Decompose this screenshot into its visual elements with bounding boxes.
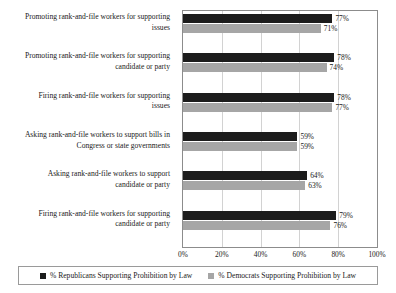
bars-layer: 77%71%78%74%78%77%59%59%64%63%79%76% <box>183 11 377 247</box>
bar-dem <box>183 142 297 151</box>
bar-dem <box>183 181 305 190</box>
bar-rep <box>183 93 334 102</box>
x-axis-ticks: 0%20%40%60%80%100% <box>182 249 378 261</box>
category-axis-labels: Promoting rank-and-file workers for supp… <box>0 10 176 248</box>
bar-value-label: 78% <box>337 53 351 62</box>
bar-chart: Promoting rank-and-file workers for supp… <box>0 0 396 293</box>
bar-dem <box>183 24 321 33</box>
bar-value-label: 59% <box>300 142 314 151</box>
bar-dem <box>183 63 327 72</box>
bar-value-label: 76% <box>333 221 347 230</box>
category-label-line: Asking rank-and-file workers to support … <box>0 130 170 141</box>
bar-value-label: 78% <box>337 93 351 102</box>
bar-value-label: 64% <box>310 171 324 180</box>
x-tick-label: 100% <box>368 249 385 260</box>
category-label-line: Asking rank-and-file workers to support <box>0 169 170 180</box>
bar-rep <box>183 132 297 141</box>
bar-value-label: 59% <box>300 132 314 141</box>
legend-label: % Republicans Supporting Prohibition by … <box>50 271 192 280</box>
bar-value-label: 77% <box>335 103 349 112</box>
category-label-line: issues <box>0 23 170 34</box>
legend-swatch-icon <box>40 273 46 279</box>
bar-rep <box>183 171 307 180</box>
category-label-line: candidate or party <box>0 219 170 230</box>
category-label: Firing rank-and-file workers for support… <box>0 209 170 230</box>
x-tick-label: 20% <box>215 249 229 260</box>
bar-dem <box>183 221 330 230</box>
x-tick-label: 0% <box>178 249 188 260</box>
chart-legend: % Republicans Supporting Prohibition by … <box>18 266 378 285</box>
bar-dem <box>183 103 332 112</box>
category-label: Asking rank-and-file workers to support … <box>0 130 170 151</box>
bar-value-label: 71% <box>324 24 338 33</box>
category-label-line: Promoting rank-and-file workers for supp… <box>0 51 170 62</box>
category-label: Firing rank-and-file workers for support… <box>0 91 170 112</box>
category-label-line: Firing rank-and-file workers for support… <box>0 91 170 102</box>
legend-item-dem[interactable]: % Democrats Supporting Prohibition by La… <box>208 271 356 280</box>
category-label-line: Congress or state governments <box>0 141 170 152</box>
bar-value-label: 74% <box>330 63 344 72</box>
category-label: Asking rank-and-file workers to supportc… <box>0 169 170 190</box>
bar-value-label: 79% <box>339 211 353 220</box>
bar-value-label: 63% <box>308 181 322 190</box>
legend-item-rep[interactable]: % Republicans Supporting Prohibition by … <box>40 271 192 280</box>
category-label-line: candidate or party <box>0 62 170 73</box>
bar-rep <box>183 53 334 62</box>
category-label-line: Firing rank-and-file workers for support… <box>0 209 170 220</box>
x-tick-label: 80% <box>331 249 345 260</box>
bar-value-label: 77% <box>335 14 349 23</box>
category-label: Promoting rank-and-file workers for supp… <box>0 51 170 72</box>
x-tick-label: 40% <box>254 249 268 260</box>
category-label-line: Promoting rank-and-file workers for supp… <box>0 12 170 23</box>
x-tick-label: 60% <box>293 249 307 260</box>
legend-swatch-icon <box>208 273 214 279</box>
bar-rep <box>183 211 336 220</box>
legend-label: % Democrats Supporting Prohibition by La… <box>218 271 356 280</box>
category-label-line: candidate or party <box>0 180 170 191</box>
category-label-line: issues <box>0 101 170 112</box>
category-label: Promoting rank-and-file workers for supp… <box>0 12 170 33</box>
bar-rep <box>183 14 332 23</box>
